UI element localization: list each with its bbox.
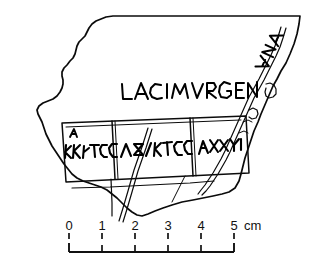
latin-inscription-lacimvrgen — [122, 82, 257, 99]
latin-letter-L — [122, 84, 132, 99]
edge-inscription-ana — [255, 30, 283, 71]
cell-divider-1 — [112, 121, 115, 179]
scale-label-0: 0 — [65, 218, 72, 233]
cell-1-glyphs — [65, 129, 117, 158]
scale-label-5: 5 — [230, 218, 237, 233]
cell-1-glyph-3 — [83, 146, 89, 158]
latin-letter-R — [207, 83, 216, 98]
cell-1-glyph-1 — [65, 145, 71, 158]
cell-2-glyph-4 — [154, 143, 161, 156]
latin-letter-G — [219, 82, 231, 98]
fragment-outline-group — [37, 16, 300, 216]
cell-2-glyph-6 — [174, 142, 182, 155]
figure-root: Inscribed fragment (tessera / plaque) wi… — [0, 0, 309, 263]
cell-2-glyph-5 — [163, 142, 172, 155]
fragment-outline — [37, 16, 300, 216]
latin-letter-M — [172, 84, 188, 98]
cell-divider-1b — [115, 121, 118, 179]
cell-3-glyph-2 — [210, 140, 218, 152]
scale-bar-group: 0 1 2 3 4 5 cm — [65, 218, 261, 252]
incised-vertical-lower — [111, 179, 112, 216]
latin-letter-C — [150, 84, 162, 99]
incised-diagonal-short — [172, 176, 185, 202]
fragment-drawing: 0 1 2 3 4 5 cm — [0, 0, 309, 263]
scale-label-1: 1 — [98, 218, 105, 233]
latin-letter-E — [236, 83, 244, 98]
cell-2-glyph-1 — [121, 144, 131, 157]
scale-label-2: 2 — [131, 218, 138, 233]
cell-1-glyph-2 — [73, 145, 80, 158]
cell-1-glyph-5 — [100, 145, 107, 157]
latin-letter-V — [192, 83, 203, 98]
scale-unit-label: cm — [244, 218, 261, 233]
latin-letter-A — [135, 83, 148, 99]
cell-divider-2b — [193, 118, 196, 176]
broken-edge-chip-mid — [249, 108, 258, 119]
scale-label-4: 4 — [197, 218, 204, 233]
cell-1-glyph-4 — [90, 145, 99, 157]
cell-divider-2 — [190, 118, 193, 176]
scale-label-3: 3 — [164, 218, 171, 233]
broken-edge-inner-2 — [198, 27, 281, 194]
frame-inner — [66, 120, 241, 127]
cell-3-glyph-1 — [199, 141, 208, 154]
cell-1-superscript-mark — [70, 129, 77, 137]
incised-diagonal-long-a — [119, 128, 148, 221]
cell-2-glyphs — [121, 141, 192, 157]
